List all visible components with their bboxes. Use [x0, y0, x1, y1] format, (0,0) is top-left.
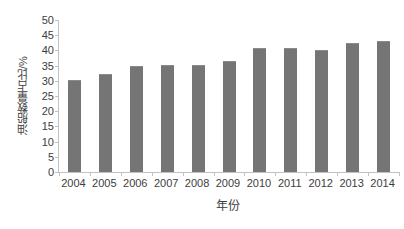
plot-area: [58, 20, 399, 173]
y-axis-tick-mark: [55, 96, 59, 97]
bar: [68, 80, 81, 172]
y-axis-tick-labels: 50454035302520151050: [30, 14, 54, 178]
y-axis-tick-label: 45: [30, 30, 54, 41]
x-axis-tick-label: 2004: [56, 176, 90, 190]
x-axis-tick-label: 2009: [211, 176, 245, 190]
y-axis-tick-label: 35: [30, 60, 54, 71]
x-axis-tick-label: 2006: [118, 176, 152, 190]
x-axis-tick-label: 2012: [304, 176, 338, 190]
bar: [284, 48, 297, 172]
y-axis-tick-mark: [55, 111, 59, 112]
x-axis-tick-label: 2014: [366, 176, 400, 190]
x-axis-tick-label: 2008: [180, 176, 214, 190]
bar: [99, 74, 112, 172]
y-axis-tick-label: 30: [30, 75, 54, 86]
y-axis-tick-mark: [55, 20, 59, 21]
bar-chart: 油船数量占比/% 50454035302520151050 2004200520…: [0, 0, 404, 229]
y-axis-tick-mark: [55, 35, 59, 36]
x-axis-tick-labels: 2004200520062007200820092010201120122013…: [58, 176, 398, 192]
y-axis-tick-label: 10: [30, 136, 54, 147]
y-axis-tick-label: 40: [30, 45, 54, 56]
y-axis-tick-label: 15: [30, 121, 54, 132]
x-axis-title: 年份: [58, 199, 398, 213]
x-axis-tick-label: 2010: [242, 176, 276, 190]
bar: [223, 61, 236, 172]
bar: [192, 65, 205, 172]
y-axis-tick-mark: [55, 66, 59, 67]
y-axis-tick-label: 0: [30, 167, 54, 178]
x-axis-tick-label: 2005: [87, 176, 121, 190]
bar: [130, 66, 143, 172]
y-axis-tick-mark: [55, 157, 59, 158]
x-axis-tick-label: 2007: [149, 176, 183, 190]
y-axis-tick-label: 25: [30, 91, 54, 102]
y-axis-tick-mark: [55, 81, 59, 82]
bar: [377, 41, 390, 172]
bar: [315, 50, 328, 172]
y-axis-tick-mark: [55, 142, 59, 143]
bar: [253, 48, 266, 172]
bar: [346, 43, 359, 172]
y-axis-tick-label: 50: [30, 15, 54, 26]
y-axis-tick-mark: [55, 50, 59, 51]
bars-layer: [59, 20, 399, 172]
x-axis-tick-label: 2011: [273, 176, 307, 190]
y-axis-tick-label: 20: [30, 106, 54, 117]
y-axis-tick-mark: [55, 126, 59, 127]
y-axis-tick-label: 5: [30, 151, 54, 162]
x-axis-tick-label: 2013: [335, 176, 369, 190]
bar: [161, 65, 174, 172]
